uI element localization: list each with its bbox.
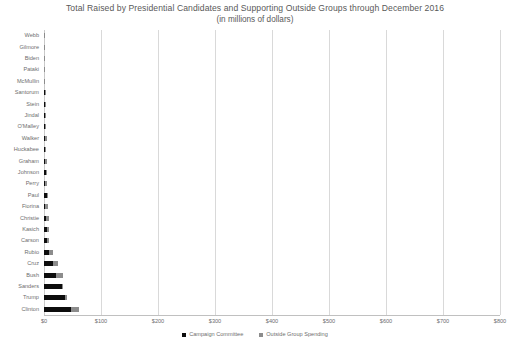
y-axis-label: Perry: [26, 180, 39, 187]
y-axis-labels: WebbGilmoreBidenPatakiMcMullinSantorumSt…: [0, 30, 42, 315]
legend-item: Campaign Committee: [182, 331, 243, 338]
bar-row: [44, 45, 500, 50]
bar-segment-campaign: [44, 273, 56, 278]
bar-segment-outside: [47, 193, 48, 198]
bar-segment-outside: [45, 113, 46, 118]
y-axis-label: Johnson: [18, 169, 39, 176]
bar-segment-outside: [53, 261, 57, 266]
y-axis-label: Trump: [23, 294, 39, 301]
x-axis-tick-label: $500: [323, 317, 335, 325]
bar-row: [44, 170, 500, 175]
bar-row: [44, 124, 500, 129]
bar-row: [44, 227, 500, 232]
bar-segment-campaign: [44, 261, 53, 266]
bar-rows: [44, 30, 500, 315]
bar-row: [44, 181, 500, 186]
y-axis-label: Bush: [26, 272, 39, 279]
bar-segment-outside: [45, 136, 47, 141]
x-axis-tick-label: $400: [266, 317, 278, 325]
y-axis-label: Pataki: [23, 66, 39, 73]
bar-segment-outside: [45, 124, 46, 129]
bar-row: [44, 261, 500, 266]
bar-segment-outside: [45, 147, 46, 152]
bar-segment-outside: [44, 45, 45, 50]
bar-segment-outside: [45, 204, 47, 209]
y-axis-label: Sanders: [18, 283, 39, 290]
bar-segment-outside: [44, 79, 45, 84]
bar-row: [44, 295, 500, 300]
y-axis-label: Carson: [21, 237, 39, 244]
chart-title-block: Total Raised by Presidential Candidates …: [0, 3, 510, 25]
y-axis-label: Fiorina: [22, 203, 39, 210]
y-axis-label: Clinton: [22, 306, 39, 313]
x-axis-tick-label: $200: [152, 317, 164, 325]
bar-row: [44, 33, 500, 38]
y-axis-label: O'Malley: [17, 123, 39, 130]
legend-label: Outside Group Spending: [266, 331, 328, 338]
bar-segment-outside: [47, 227, 49, 232]
bar-row: [44, 250, 500, 255]
bar-segment-outside: [45, 159, 47, 164]
bar-row: [44, 90, 500, 95]
y-axis-label: Christie: [20, 215, 39, 222]
bar-chart: Total Raised by Presidential Candidates …: [0, 0, 510, 349]
legend-label: Campaign Committee: [189, 331, 243, 338]
x-axis-tick-label: $100: [95, 317, 107, 325]
bar-row: [44, 238, 500, 243]
x-axis-tick-label: $600: [380, 317, 392, 325]
bar-segment-outside: [56, 273, 63, 278]
legend-swatch-icon: [182, 333, 186, 337]
y-axis-label: Rubio: [24, 249, 39, 256]
x-axis-line: [44, 315, 500, 316]
y-axis-label: Kasich: [22, 226, 39, 233]
bar-row: [44, 307, 500, 312]
bar-segment-outside: [44, 33, 45, 38]
legend-swatch-icon: [259, 333, 263, 337]
bar-segment-outside: [46, 170, 47, 175]
gridline-800: [500, 30, 501, 315]
chart-title: Total Raised by Presidential Candidates …: [0, 3, 510, 14]
y-axis-label: Stein: [26, 101, 39, 108]
bar-segment-outside: [45, 90, 46, 95]
y-axis-label: Gilmore: [19, 44, 39, 51]
bar-segment-outside: [47, 238, 49, 243]
bar-segment-outside: [45, 181, 47, 186]
bar-row: [44, 113, 500, 118]
x-axis-tick-label: $800: [494, 317, 506, 325]
bar-row: [44, 56, 500, 61]
bar-row: [44, 136, 500, 141]
chart-legend: Campaign CommitteeOutside Group Spending: [0, 331, 510, 338]
legend-item: Outside Group Spending: [259, 331, 328, 338]
bar-segment-outside: [65, 295, 67, 300]
bar-row: [44, 102, 500, 107]
bar-segment-outside: [46, 216, 49, 221]
bar-segment-campaign: [44, 307, 71, 312]
bar-segment-outside: [49, 250, 53, 255]
bar-segment-outside: [44, 56, 45, 61]
x-axis-labels: $0$100$200$300$400$500$600$700$800: [0, 317, 510, 329]
bar-row: [44, 79, 500, 84]
bar-segment-campaign: [44, 284, 62, 289]
y-axis-label: Santorum: [15, 89, 39, 96]
y-axis-label: McMullin: [17, 78, 39, 85]
y-axis-label: Cruz: [27, 260, 39, 267]
bar-row: [44, 273, 500, 278]
bar-segment-outside: [71, 307, 79, 312]
y-axis-label: Biden: [25, 55, 39, 62]
bar-segment-outside: [45, 102, 46, 107]
y-axis-label: Walker: [22, 135, 39, 142]
y-axis-label: Paul: [28, 192, 39, 199]
bar-row: [44, 193, 500, 198]
x-axis-tick-label: $700: [437, 317, 449, 325]
bar-row: [44, 216, 500, 221]
bar-row: [44, 284, 500, 289]
y-axis-label: Graham: [19, 158, 39, 165]
y-axis-label: Huckabee: [14, 146, 39, 153]
y-axis-label: Webb: [24, 32, 39, 39]
bar-row: [44, 147, 500, 152]
bar-segment-outside: [44, 67, 45, 72]
bar-segment-campaign: [44, 295, 65, 300]
bar-segment-outside: [62, 284, 63, 289]
plot-area: [44, 30, 500, 315]
x-axis-tick-label: $300: [209, 317, 221, 325]
